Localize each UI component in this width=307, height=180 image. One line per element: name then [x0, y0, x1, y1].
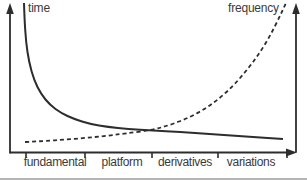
bottom-divider-line: [0, 178, 307, 180]
plot-canvas: [0, 0, 307, 180]
x-axis-label-derivatives: derivatives: [158, 155, 212, 169]
x-axis-label-fundamental: fundamental: [24, 155, 87, 169]
x-axis-label-variations: variations: [227, 155, 275, 169]
x-axis-label-platform: platform: [102, 155, 143, 169]
y-axis-label-time: time: [28, 1, 50, 15]
concept-chart: time frequency fundamental platform deri…: [0, 0, 307, 180]
series-time-curve: [24, 3, 283, 139]
series-frequency-curve: [25, 3, 286, 142]
y-axis-label-frequency: frequency: [228, 1, 279, 15]
